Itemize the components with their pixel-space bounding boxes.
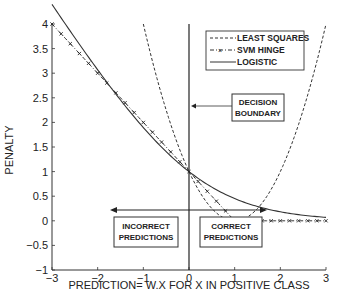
legend-label-least-squares: LEAST SQUARES xyxy=(237,33,310,43)
incorrect-label-2: PREDICTIONS xyxy=(119,233,174,242)
incorrect-label-1: INCORRECT xyxy=(122,222,170,231)
x-marker-icon xyxy=(78,52,81,55)
y-tick-label: 0.5 xyxy=(33,190,48,202)
decision-label-2: BOUNDARY xyxy=(235,109,282,118)
y-tick-label: 3 xyxy=(42,67,48,79)
incorrect-predictions-box: INCORRECT PREDICTIONS xyxy=(114,217,178,247)
y-axis-label: PENALTY xyxy=(3,125,15,175)
x-marker-icon xyxy=(206,190,209,193)
x-marker-icon xyxy=(160,140,163,143)
x-tick-label: 3 xyxy=(323,272,329,284)
arrow-left-icon xyxy=(110,207,117,213)
y-tick-label: 1.5 xyxy=(33,141,48,153)
y-tick-label: −1 xyxy=(35,264,48,276)
correct-label-2: PREDICTIONS xyxy=(204,233,259,242)
legend-label-svm-hinge: SVM HINGE xyxy=(237,45,285,55)
y-tick-label: 3.5 xyxy=(33,43,48,55)
x-marker-icon xyxy=(133,111,136,114)
x-marker-icon xyxy=(151,131,154,134)
x-marker-icon xyxy=(197,180,200,183)
decision-boundary-annotation: DECISION BOUNDARY xyxy=(191,94,284,121)
x-marker-icon xyxy=(324,219,327,222)
arrow-left-icon xyxy=(191,104,196,109)
x-marker-icon: × xyxy=(218,47,222,54)
legend-label-logistic: LOGISTIC xyxy=(237,57,277,67)
y-tick-label: 1 xyxy=(42,166,48,178)
decision-label-1: DECISION xyxy=(239,98,278,107)
correct-predictions-box: CORRECT PREDICTIONS xyxy=(200,217,262,247)
y-tick-label: 4 xyxy=(42,18,48,30)
x-marker-icon xyxy=(169,150,172,153)
x-marker-icon xyxy=(69,42,72,45)
penalty-chart: −3−2−10123−1−0.500.511.522.533.54 DECISI… xyxy=(0,0,346,291)
correct-label-1: CORRECT xyxy=(211,222,251,231)
x-marker-icon xyxy=(60,32,63,35)
y-tick-label: −0.5 xyxy=(26,239,48,251)
legend: × LEAST SQUARES SVM HINGE LOGISTIC xyxy=(206,31,310,70)
y-tick-label: 2.5 xyxy=(33,92,48,104)
y-tick-label: 2 xyxy=(42,116,48,128)
x-axis-label: PREDICTION= W.X FOR X IN POSITIVE CLASS xyxy=(68,279,309,291)
y-tick-label: 0 xyxy=(42,215,48,227)
x-marker-icon xyxy=(142,121,145,124)
x-marker-icon xyxy=(215,200,218,203)
x-marker-icon xyxy=(87,62,90,65)
